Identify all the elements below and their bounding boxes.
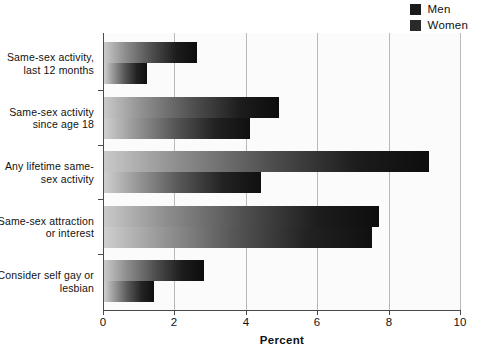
y-tick-1 <box>98 145 103 146</box>
legend-entry-men: Men <box>410 4 451 16</box>
y-category-label-1: Same-sex activitysince age 18 <box>0 106 94 131</box>
bar-women-3 <box>104 227 372 248</box>
x-axis-label: Percent <box>103 334 461 346</box>
bar-men-2 <box>104 151 429 172</box>
x-tick-0 <box>103 311 104 315</box>
y-category-label-3-line-0: Same-sex attraction <box>0 215 94 228</box>
y-category-label-2-line-1: sex activity <box>0 173 94 186</box>
x-tick-label-6: 6 <box>314 316 320 328</box>
x-tick-label-2: 2 <box>171 316 177 328</box>
y-category-label-1-line-1: since age 18 <box>0 118 94 131</box>
bar-men-4 <box>104 260 204 281</box>
y-category-label-0: Same-sex activity,last 12 months <box>0 51 94 76</box>
bar-women-1 <box>104 118 250 139</box>
y-tick-3 <box>98 254 103 255</box>
x-tick-label-4: 4 <box>243 316 249 328</box>
x-axis-line <box>103 310 461 311</box>
y-tick-2 <box>98 199 103 200</box>
chart-legend: Men Women <box>410 4 468 31</box>
x-tick-label-0: 0 <box>100 316 106 328</box>
bar-chart-figure: Men Women 0246810 Same-sex activity,last… <box>0 0 480 356</box>
gridline-10 <box>460 33 461 310</box>
x-tick-4 <box>246 311 247 315</box>
bar-men-3 <box>104 206 379 227</box>
bar-women-4 <box>104 281 154 302</box>
y-category-label-1-line-0: Same-sex activity <box>0 106 94 119</box>
y-category-label-3: Same-sex attractionor interest <box>0 215 94 240</box>
y-category-label-0-line-1: last 12 months <box>0 64 94 77</box>
legend-label-women: Women <box>428 20 468 32</box>
y-category-label-3-line-1: or interest <box>0 227 94 240</box>
y-category-label-4: Consider self gay orlesbian <box>0 269 94 294</box>
bar-women-0 <box>104 63 147 84</box>
bar-men-0 <box>104 42 197 63</box>
y-category-label-2: Any lifetime same-sex activity <box>0 160 94 185</box>
x-tick-8 <box>389 311 390 315</box>
legend-entry-women: Women <box>410 20 468 32</box>
x-tick-label-10: 10 <box>454 316 467 328</box>
x-tick-6 <box>317 311 318 315</box>
x-tick-label-8: 8 <box>386 316 392 328</box>
y-category-label-0-line-0: Same-sex activity, <box>0 51 94 64</box>
y-tick-0 <box>98 90 103 91</box>
legend-label-men: Men <box>428 4 451 16</box>
y-category-label-4-line-1: lesbian <box>0 282 94 295</box>
x-tick-10 <box>460 311 461 315</box>
y-category-label-4-line-0: Consider self gay or <box>0 269 94 282</box>
bar-men-1 <box>104 97 279 118</box>
y-category-label-2-line-0: Any lifetime same- <box>0 160 94 173</box>
bar-women-2 <box>104 172 261 193</box>
x-tick-2 <box>174 311 175 315</box>
legend-swatch-men <box>410 4 421 15</box>
legend-swatch-women <box>410 20 421 31</box>
